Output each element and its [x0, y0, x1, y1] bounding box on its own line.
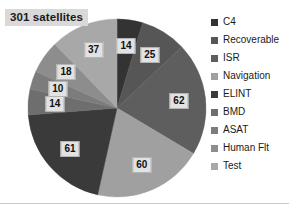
- pie-slice-label: 37: [84, 42, 103, 58]
- legend-item-label: Navigation: [223, 71, 270, 81]
- legend-item[interactable]: ASAT: [211, 121, 289, 139]
- legend-swatch-icon: [211, 19, 218, 26]
- pie-slice-label: 62: [169, 93, 188, 109]
- legend-item[interactable]: Test: [211, 157, 289, 175]
- pie-slice-label: 61: [60, 141, 79, 157]
- pie-chart-plot-area: 142562606114101837: [28, 12, 208, 204]
- legend-item[interactable]: ELINT: [211, 85, 289, 103]
- legend-item-label: Human Flt: [223, 143, 269, 153]
- pie-slice-label: 60: [132, 157, 151, 173]
- pie-slice-label: 10: [48, 81, 67, 97]
- legend-swatch-icon: [211, 145, 218, 152]
- legend-item-label: ASAT: [223, 125, 248, 135]
- legend-swatch-icon: [211, 55, 218, 62]
- legend-swatch-icon: [211, 37, 218, 44]
- pie-slice-label: 25: [140, 47, 159, 63]
- legend-item[interactable]: Human Flt: [211, 139, 289, 157]
- legend-item-label: Test: [223, 161, 241, 171]
- chart-title: 301 satellites: [5, 9, 88, 26]
- legend-swatch-icon: [211, 91, 218, 98]
- pie-slice-label: 14: [45, 96, 64, 112]
- legend-item-label: Recoverable: [223, 35, 279, 45]
- pie-chart-screenshot: 301 satellites 142562606114101837 C4Reco…: [0, 0, 289, 204]
- legend-item[interactable]: Recoverable: [211, 31, 289, 49]
- legend-swatch-icon: [211, 127, 218, 134]
- legend-item-label: C4: [223, 17, 236, 27]
- legend-swatch-icon: [211, 163, 218, 170]
- legend-item[interactable]: C4: [211, 13, 289, 31]
- legend-item[interactable]: ISR: [211, 49, 289, 67]
- legend-item-label: BMD: [223, 107, 245, 117]
- legend-item[interactable]: BMD: [211, 103, 289, 121]
- legend-swatch-icon: [211, 73, 218, 80]
- legend-item-label: ISR: [223, 53, 240, 63]
- legend-item[interactable]: Navigation: [211, 67, 289, 85]
- legend-swatch-icon: [211, 109, 218, 116]
- legend-item-label: ELINT: [223, 89, 251, 99]
- pie-slice-label: 18: [56, 64, 75, 80]
- pie-slice-label: 14: [117, 38, 136, 54]
- chart-legend: C4RecoverableISRNavigationELINTBMDASATHu…: [211, 13, 289, 175]
